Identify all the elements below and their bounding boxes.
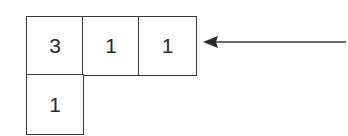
left-arrow-icon [200, 32, 348, 52]
cell-r1-c3: 1 [138, 16, 197, 76]
cell-r1-c1: 3 [26, 16, 84, 76]
cell-r2-c1: 1 [26, 74, 84, 135]
cell-r1-c2: 1 [82, 16, 140, 76]
